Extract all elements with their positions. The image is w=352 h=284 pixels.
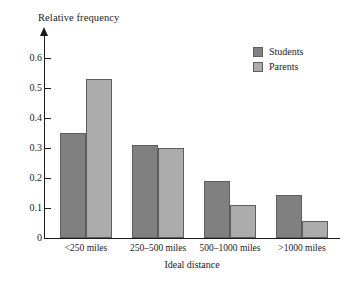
chart-legend: StudentsParents	[253, 45, 303, 75]
y-axis-tick	[45, 88, 51, 89]
bar-students-2	[204, 181, 230, 238]
y-axis-tick	[45, 178, 51, 179]
x-axis-line	[44, 238, 340, 239]
y-axis-tick-label: 0.5	[30, 83, 43, 93]
y-axis-tick-label: 0.1	[30, 203, 43, 213]
y-axis-tick-label: 0.6	[30, 53, 43, 63]
plot-area: 00.10.20.30.40.50.6 <250 miles250–500 mi…	[0, 0, 352, 284]
legend-label: Parents	[269, 61, 298, 72]
bar-parents-2	[230, 205, 256, 238]
y-axis-tick-label: 0.4	[30, 113, 43, 123]
bar-parents-0	[86, 79, 112, 238]
y-axis-tick	[45, 148, 51, 149]
y-axis-tick	[45, 58, 51, 59]
legend-swatch-icon	[253, 62, 263, 72]
x-axis-tick-label: 500–1000 miles	[200, 243, 261, 253]
y-axis-tick	[45, 208, 51, 209]
chart-figure: Relative frequency 00.10.20.30.40.50.6 <…	[0, 0, 352, 284]
bar-students-1	[132, 145, 158, 238]
y-axis-tick-label: 0	[37, 233, 42, 243]
legend-swatch-icon	[253, 47, 263, 57]
bar-students-0	[60, 133, 86, 238]
y-axis-tick-label: 0.2	[30, 173, 43, 183]
bar-students-3	[276, 195, 302, 239]
x-axis-tick-label: <250 miles	[65, 243, 108, 253]
y-axis-tick	[45, 238, 51, 239]
legend-item-parents: Parents	[253, 60, 303, 73]
y-axis-arrow-icon	[40, 27, 48, 36]
legend-label: Students	[269, 46, 303, 57]
bar-parents-1	[158, 148, 184, 238]
y-axis-tick	[45, 118, 51, 119]
bar-parents-3	[302, 221, 328, 238]
legend-item-students: Students	[253, 45, 303, 58]
x-axis-tick-label: >1000 miles	[278, 243, 325, 253]
x-axis-tick-label: 250–500 miles	[130, 243, 186, 253]
x-axis-title: Ideal distance	[164, 259, 219, 270]
y-axis-tick-label: 0.3	[30, 143, 43, 153]
